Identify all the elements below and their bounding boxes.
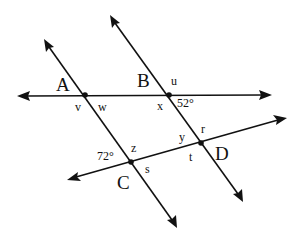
angle-r-label: r [201,122,205,136]
line-ac [44,39,177,228]
arrow-down-icon [167,215,177,228]
point-c-dot [128,159,134,165]
point-b-dot [166,92,172,98]
angle-t-label: t [189,150,193,164]
angle-u-label: u [171,74,177,88]
angle-72-label: 72° [97,149,114,163]
point-a-label: A [56,74,70,95]
angle-z-label: z [131,141,136,155]
line-cd [67,115,287,181]
arrow-up-icon [110,15,120,28]
arrow-up-icon [44,39,54,52]
angle-52-label: 52° [177,96,194,110]
point-a-dot [82,92,88,98]
point-d-dot [198,140,204,146]
angle-y-label: y [179,130,185,144]
point-b-label: B [137,70,150,91]
point-c-label: C [117,172,130,193]
angle-v-label: v [75,100,81,114]
angle-s-label: s [145,162,150,176]
point-d-label: D [215,143,229,164]
geometry-diagram: A B C D u v w x 52° y r t z s 72° [0,0,302,241]
angle-w-label: w [98,100,107,114]
angle-x-label: x [157,99,163,113]
arrow-down-icon [233,189,243,202]
